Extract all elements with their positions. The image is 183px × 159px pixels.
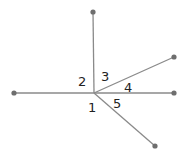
rays	[14, 12, 174, 146]
diagram-svg: 1 2 3 4 5	[0, 0, 183, 159]
angle-label-1: 1	[88, 100, 96, 115]
ray-up	[93, 12, 94, 93]
angle-label-5: 5	[113, 96, 121, 111]
endpoint-dot-right-up	[171, 54, 176, 59]
endpoint-dot-down-right	[152, 143, 157, 148]
endpoint-dot-up	[90, 9, 95, 14]
angle-label-3: 3	[101, 69, 109, 84]
angle-label-4: 4	[124, 80, 132, 95]
endpoint-dot-right	[171, 90, 176, 95]
angle-labels: 1 2 3 4 5	[78, 69, 132, 115]
endpoint-dot-left	[11, 90, 16, 95]
angle-label-2: 2	[78, 74, 86, 89]
angle-diagram: 1 2 3 4 5	[0, 0, 183, 159]
ray-down-right	[94, 93, 155, 146]
